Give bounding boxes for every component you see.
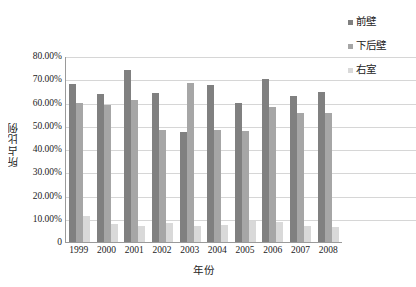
bar-chart: 所占比例 010.00%20.00%30.00%40.00%50.00%60.0… — [0, 0, 416, 287]
gridline — [342, 173, 416, 174]
x-axis-tick-label: 2003 — [176, 246, 204, 256]
bar — [332, 227, 339, 242]
gridline — [342, 127, 416, 128]
bar — [124, 70, 131, 242]
gridline — [342, 197, 416, 198]
legend-label: 下后壁 — [356, 41, 386, 52]
bar — [297, 113, 304, 242]
bar-group — [259, 57, 287, 242]
x-axis-tick-label: 2002 — [148, 246, 176, 256]
legend-label: 前壁 — [356, 17, 376, 28]
bar-group — [204, 57, 232, 242]
bar-group — [314, 57, 342, 242]
bar — [83, 216, 90, 242]
bar — [269, 107, 276, 242]
x-axis-tick-labels: 1999200020012002200320042005200620072008 — [65, 246, 342, 256]
bar — [187, 83, 194, 242]
y-axis-tick-label: 40.00% — [33, 145, 62, 155]
bar-group — [121, 57, 149, 242]
legend-item[interactable]: 前壁 — [348, 10, 414, 34]
y-axis-tick-label: 80.00% — [33, 52, 62, 62]
gridline — [342, 220, 416, 221]
plot-area — [65, 57, 342, 243]
bar-group — [232, 57, 260, 242]
bar — [76, 103, 83, 242]
x-axis-tick-label: 2001 — [120, 246, 148, 256]
bar — [235, 103, 242, 242]
x-axis-tick-label: 2004 — [204, 246, 232, 256]
y-axis-tick-label: 70.00% — [33, 76, 62, 86]
x-axis-tick-label: 1999 — [65, 246, 93, 256]
bar-group — [149, 57, 177, 242]
legend-item[interactable]: 下后壁 — [348, 34, 414, 58]
bar-group — [94, 57, 122, 242]
bar — [138, 226, 145, 242]
legend-swatch-icon — [348, 20, 353, 25]
x-axis-tick-label: 2000 — [93, 246, 121, 256]
y-axis-tick-labels: 010.00%20.00%30.00%40.00%50.00%60.00%70.… — [18, 0, 64, 287]
bar — [152, 93, 159, 242]
legend-item[interactable]: 右室 — [348, 58, 414, 82]
bar — [242, 131, 249, 242]
chart-legend: 前壁下后壁右室 — [348, 10, 414, 82]
x-axis-tick-label: 2005 — [231, 246, 259, 256]
x-axis-tick-label: 2008 — [314, 246, 342, 256]
bar — [104, 105, 111, 242]
bar — [214, 130, 221, 242]
bar — [221, 225, 228, 242]
bar — [262, 79, 269, 242]
bar — [166, 223, 173, 242]
bar — [131, 100, 138, 242]
bar — [276, 222, 283, 242]
y-axis-tick-label: 30.00% — [33, 169, 62, 179]
gridline — [342, 104, 416, 105]
bar — [249, 221, 256, 242]
legend-label: 右室 — [356, 65, 376, 76]
y-axis-tick-label: 60.00% — [33, 99, 62, 109]
bar — [180, 132, 187, 242]
bar — [290, 96, 297, 242]
bar-group — [176, 57, 204, 242]
gridline — [342, 150, 416, 151]
legend-swatch-icon — [348, 44, 353, 49]
x-axis-tick-label: 2007 — [287, 246, 315, 256]
bar — [325, 113, 332, 243]
bar — [159, 130, 166, 242]
bars-layer — [66, 57, 342, 242]
bar — [207, 85, 214, 242]
x-axis-tick-label: 2006 — [259, 246, 287, 256]
bar-group — [66, 57, 94, 242]
bar — [111, 224, 118, 242]
bar-group — [287, 57, 315, 242]
y-axis-tick-label: 10.00% — [33, 215, 62, 225]
x-axis-title: 年份 — [65, 262, 342, 277]
legend-swatch-icon — [348, 68, 353, 73]
y-axis-tick-label: 20.00% — [33, 192, 62, 202]
bar — [69, 84, 76, 242]
bar — [194, 226, 201, 242]
bar — [97, 94, 104, 242]
bar — [304, 226, 311, 242]
y-axis-tick-label: 0 — [57, 238, 62, 248]
y-axis-tick-label: 50.00% — [33, 122, 62, 132]
bar — [318, 92, 325, 242]
